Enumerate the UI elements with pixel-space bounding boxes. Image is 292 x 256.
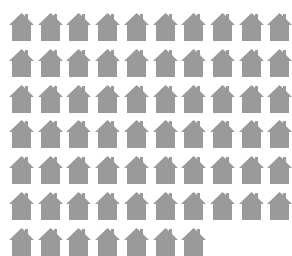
house-icon xyxy=(66,118,91,148)
house-icon xyxy=(9,154,34,184)
house-icon xyxy=(239,11,264,41)
house-icon xyxy=(95,118,120,148)
house-icon xyxy=(95,83,120,113)
house-icon xyxy=(9,226,34,256)
house-icon xyxy=(210,47,235,77)
house-icon xyxy=(181,190,206,220)
house-icon xyxy=(153,83,178,113)
house-icon xyxy=(210,83,235,113)
house-icon xyxy=(239,83,264,113)
house-icon xyxy=(181,11,206,41)
house-icon xyxy=(38,83,63,113)
house-icon xyxy=(66,226,91,256)
house-icon xyxy=(267,118,292,148)
house-icon xyxy=(95,47,120,77)
house-icon xyxy=(66,190,91,220)
house-icon xyxy=(38,190,63,220)
house-icon xyxy=(38,226,63,256)
house-icon xyxy=(9,11,34,41)
house-icon xyxy=(153,154,178,184)
house-icon xyxy=(239,190,264,220)
house-icon xyxy=(124,226,149,256)
house-icon xyxy=(66,47,91,77)
house-icon xyxy=(9,83,34,113)
house-icon xyxy=(267,154,292,184)
house-icon xyxy=(66,154,91,184)
house-icon xyxy=(153,11,178,41)
house-icon xyxy=(9,118,34,148)
house-icon xyxy=(38,154,63,184)
house-icon xyxy=(239,118,264,148)
house-icon xyxy=(267,11,292,41)
house-icon xyxy=(95,154,120,184)
house-icon xyxy=(181,226,206,256)
house-icon xyxy=(66,83,91,113)
house-icon xyxy=(66,11,91,41)
house-icon xyxy=(181,83,206,113)
house-icon xyxy=(124,190,149,220)
house-icon xyxy=(210,118,235,148)
house-icon xyxy=(210,190,235,220)
house-icon xyxy=(9,190,34,220)
house-icon xyxy=(181,118,206,148)
house-icon xyxy=(124,11,149,41)
house-icon xyxy=(9,47,34,77)
house-icon xyxy=(153,47,178,77)
house-icon xyxy=(181,154,206,184)
house-icon xyxy=(38,118,63,148)
house-icon xyxy=(124,83,149,113)
house-icon xyxy=(124,154,149,184)
house-icon xyxy=(267,47,292,77)
house-icon xyxy=(38,47,63,77)
house-icon xyxy=(124,47,149,77)
house-icon xyxy=(95,11,120,41)
house-icon xyxy=(239,47,264,77)
house-icon xyxy=(210,154,235,184)
house-icon xyxy=(153,190,178,220)
house-icon xyxy=(239,154,264,184)
house-icon xyxy=(181,47,206,77)
house-icon xyxy=(267,83,292,113)
house-icon xyxy=(95,190,120,220)
house-icon xyxy=(153,226,178,256)
house-icon xyxy=(267,190,292,220)
house-icon xyxy=(38,11,63,41)
house-icon xyxy=(210,11,235,41)
house-icon xyxy=(153,118,178,148)
house-icon xyxy=(124,118,149,148)
house-icon xyxy=(95,226,120,256)
